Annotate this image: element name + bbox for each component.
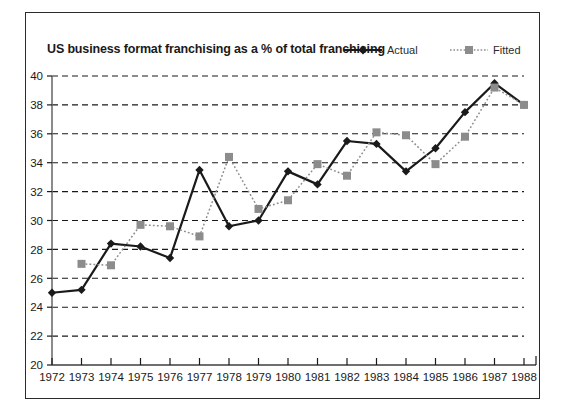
data-point-fitted — [78, 260, 86, 268]
y-tick-label: 36 — [30, 128, 43, 140]
y-tick-label: 26 — [30, 273, 43, 285]
data-series — [48, 79, 528, 297]
data-point-fitted — [402, 131, 410, 139]
gridlines — [52, 76, 524, 336]
x-tick-label: 1973 — [69, 371, 95, 383]
plot-area: 2022242628303234363840 19721973197419751… — [0, 0, 567, 412]
data-point-actual — [48, 289, 56, 297]
x-axis: 1972197319741975197619771978197919801981… — [39, 356, 537, 383]
y-tick-label: 28 — [30, 244, 43, 256]
x-tick-label: 1982 — [334, 371, 360, 383]
x-tick-label: 1988 — [511, 371, 537, 383]
data-point-fitted — [373, 128, 381, 136]
x-tick-label: 1986 — [452, 371, 478, 383]
x-tick-label: 1978 — [216, 371, 242, 383]
data-point-fitted — [343, 172, 351, 180]
series-line-actual — [52, 83, 524, 293]
data-point-fitted — [432, 160, 440, 168]
data-point-fitted — [107, 261, 115, 269]
data-point-actual — [195, 166, 203, 174]
data-point-fitted — [137, 221, 145, 229]
data-point-fitted — [284, 196, 292, 204]
x-tick-label: 1974 — [98, 371, 124, 383]
x-tick-label: 1977 — [187, 371, 213, 383]
chart-figure: US business format franchising as a % of… — [0, 0, 567, 412]
x-tick-label: 1981 — [305, 371, 331, 383]
x-tick-label: 1976 — [157, 371, 183, 383]
x-tick-label: 1983 — [364, 371, 390, 383]
data-point-fitted — [491, 84, 499, 92]
y-tick-label: 32 — [30, 186, 43, 198]
y-tick-label: 38 — [30, 99, 43, 111]
data-point-fitted — [166, 222, 174, 230]
data-point-fitted — [461, 133, 469, 141]
series-line-fitted — [82, 88, 525, 266]
y-axis: 2022242628303234363840 — [30, 70, 52, 371]
y-tick-label: 24 — [30, 301, 43, 313]
y-tick-label: 40 — [30, 70, 43, 82]
data-point-fitted — [225, 153, 233, 161]
data-point-fitted — [196, 232, 204, 240]
x-tick-label: 1975 — [128, 371, 154, 383]
x-tick-label: 1980 — [275, 371, 301, 383]
x-tick-label: 1984 — [393, 371, 419, 383]
data-point-fitted — [314, 160, 322, 168]
x-tick-label: 1972 — [39, 371, 65, 383]
y-tick-label: 30 — [30, 215, 43, 227]
data-point-fitted — [520, 101, 528, 109]
data-point-fitted — [255, 205, 263, 213]
x-tick-label: 1985 — [423, 371, 449, 383]
y-tick-label: 34 — [30, 157, 43, 169]
data-point-actual — [225, 222, 233, 230]
y-tick-label: 22 — [30, 330, 43, 342]
x-tick-label: 1979 — [246, 371, 272, 383]
x-tick-label: 1987 — [482, 371, 508, 383]
data-point-actual — [166, 254, 174, 262]
y-tick-label: 20 — [30, 359, 43, 371]
